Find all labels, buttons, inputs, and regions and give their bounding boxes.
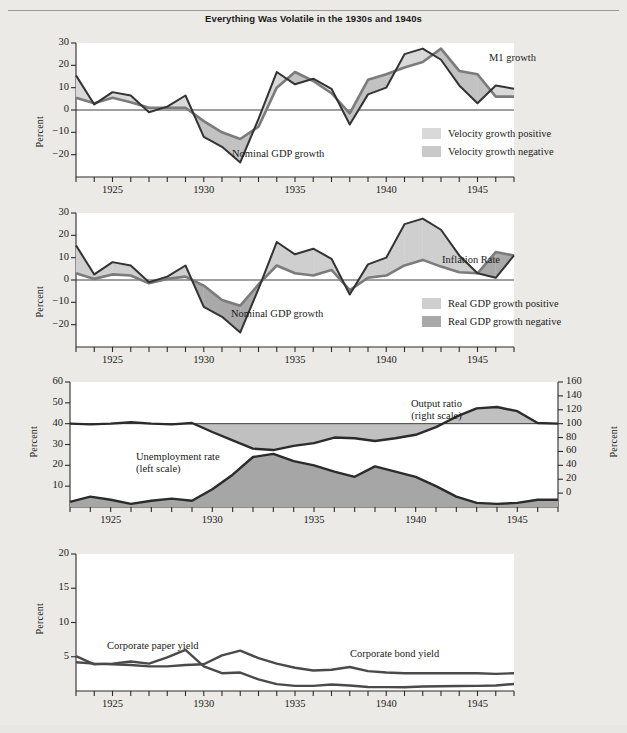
panel-3-unemployment-output: Percent Percent 605040302010 16014012010…: [0, 378, 627, 530]
panel-2-label-nominal-gdp: Nominal GDP growth: [231, 308, 323, 320]
panel-1-legend-velocity-negative: Velocity growth negative: [422, 146, 554, 157]
x-tick-label: 1945: [456, 698, 500, 709]
panel-4-yields: Percent 2015105 19251930193519401945 Cor…: [0, 548, 627, 718]
panel-3-label-unemployment-scale: (left scale): [136, 463, 181, 474]
x-tick-label: 1945: [456, 184, 500, 195]
panel-3-label-output-ratio-text: Output ratio: [411, 398, 462, 409]
panel-1-money-growth: Percent 3020100−10−20 192519301935194019…: [0, 38, 627, 198]
x-tick-label: 1925: [91, 184, 135, 195]
panel-3-label-output-ratio: Output ratio (right scale): [411, 398, 462, 421]
panel-4-label-corporate-bond-yield: Corporate bond yield: [350, 648, 439, 660]
legend-swatch-velocity-negative: [422, 146, 441, 157]
panel-3-chart-svg: [0, 378, 627, 530]
x-tick-label: 1945: [495, 514, 539, 525]
panel-1-label-nominal-gdp: Nominal GDP growth: [232, 148, 324, 160]
legend-swatch-real-gdp-positive: [422, 298, 441, 309]
panel-3-label-unemployment-rate: Unemployment rate (left scale): [136, 451, 220, 474]
x-tick-label: 1925: [89, 514, 133, 525]
top-rule: [8, 10, 619, 11]
figure-container: Everything Was Volatile in the 1930s and…: [0, 0, 627, 733]
panel-4-label-corporate-paper-yield: Corporate paper yield: [107, 640, 199, 652]
panel-3-label-unemployment-text: Unemployment rate: [136, 451, 220, 462]
legend-label-velocity-positive: Velocity growth positive: [448, 128, 551, 139]
bottom-edge: [0, 725, 627, 733]
x-tick-label: 1935: [273, 354, 317, 365]
x-tick-label: 1930: [182, 184, 226, 195]
x-tick-label: 1945: [456, 354, 500, 365]
x-tick-label: 1940: [364, 184, 408, 195]
panel-2-legend-real-gdp-positive: Real GDP growth positive: [422, 298, 559, 309]
panel-2-chart-svg: [0, 208, 627, 368]
panel-3-label-output-ratio-scale: (right scale): [411, 410, 461, 421]
x-tick-label: 1940: [364, 698, 408, 709]
panel-2-label-inflation-rate: Inflation Rate: [442, 254, 500, 266]
x-tick-label: 1930: [190, 514, 234, 525]
panel-1-legend-velocity-positive: Velocity growth positive: [422, 128, 551, 139]
x-tick-label: 1940: [394, 514, 438, 525]
legend-swatch-real-gdp-negative: [422, 316, 441, 327]
x-tick-label: 1935: [292, 514, 336, 525]
figure-title: Everything Was Volatile in the 1930s and…: [0, 13, 627, 24]
x-tick-label: 1935: [273, 698, 317, 709]
legend-label-velocity-negative: Velocity growth negative: [448, 146, 554, 157]
x-tick-label: 1925: [91, 354, 135, 365]
panel-4-chart-svg: [0, 548, 627, 718]
x-tick-label: 1930: [182, 354, 226, 365]
x-tick-label: 1940: [364, 354, 408, 365]
panel-2-inflation: Percent 3020100−10−20 192519301935194019…: [0, 208, 627, 368]
legend-swatch-velocity-positive: [422, 128, 441, 139]
x-tick-label: 1930: [182, 698, 226, 709]
panel-1-label-m1-growth: M1 growth: [489, 52, 536, 64]
legend-label-real-gdp-positive: Real GDP growth positive: [448, 298, 559, 309]
panel-2-legend-real-gdp-negative: Real GDP growth negative: [422, 316, 561, 327]
x-tick-label: 1935: [273, 184, 317, 195]
legend-label-real-gdp-negative: Real GDP growth negative: [448, 316, 561, 327]
x-tick-label: 1925: [91, 698, 135, 709]
